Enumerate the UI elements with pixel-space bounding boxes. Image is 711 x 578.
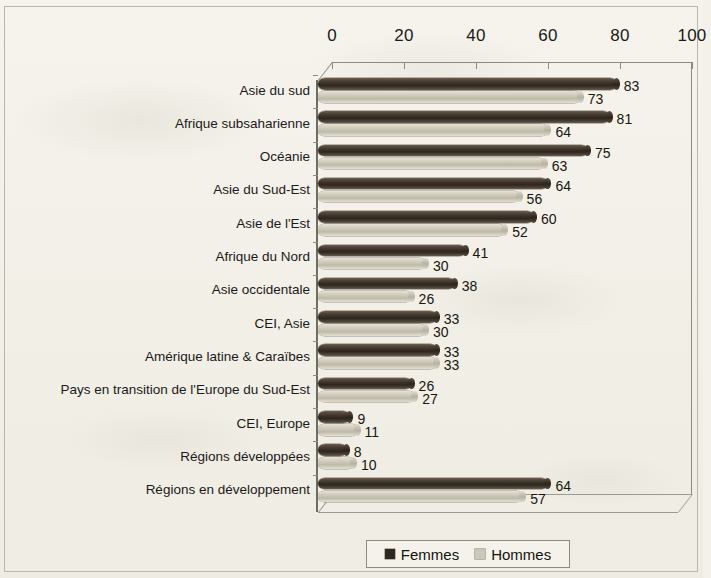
bar-hommes-9 (318, 391, 415, 403)
x-tick-mark (548, 62, 549, 69)
category-label: Asie du sud (239, 84, 310, 98)
bar-hommes-1 (318, 124, 548, 136)
value-label-femmes-0: 83 (624, 79, 640, 93)
category-label: Océanie (260, 150, 310, 164)
chart-legend: FemmesHommes (366, 540, 570, 568)
bar-femmes-0 (318, 78, 617, 90)
x-tick-100: 100 (662, 26, 711, 46)
category-label: Régions en développement (146, 483, 310, 497)
value-label-hommes-8: 33 (444, 358, 460, 372)
bar-femmes-4 (318, 211, 534, 223)
x-tick-mark (476, 62, 477, 69)
category-label: CEI, Europe (236, 417, 310, 431)
legend-label: Hommes (491, 546, 551, 563)
bar-femmes-7 (318, 311, 437, 323)
axis-line (691, 62, 692, 494)
bar-femmes-2 (318, 145, 588, 157)
axis-line (318, 512, 678, 513)
value-label-hommes-7: 30 (433, 325, 449, 339)
category-tick-mark (313, 341, 318, 342)
category-label: CEI, Asie (254, 317, 310, 331)
value-label-femmes-6: 38 (462, 279, 478, 293)
x-tick-mark (332, 62, 333, 69)
value-label-hommes-4: 52 (512, 225, 528, 239)
bar-hommes-0 (318, 91, 581, 103)
category-tick-mark (313, 408, 318, 409)
category-tick-mark (313, 441, 318, 442)
value-label-hommes-12: 57 (530, 492, 546, 506)
category-label: Asie de l'Est (236, 217, 310, 231)
x-tick-0: 0 (302, 26, 362, 46)
category-label: Afrique subsaharienne (175, 117, 310, 131)
value-label-femmes-2: 75 (595, 146, 611, 160)
bar-femmes-5 (318, 245, 466, 257)
value-label-femmes-3: 64 (555, 179, 571, 193)
category-tick-mark (313, 242, 318, 243)
category-label: Asie occidentale (212, 283, 310, 297)
legend-item-femmes[interactable]: Femmes (385, 546, 459, 563)
bar-femmes-11 (318, 444, 347, 456)
bar-femmes-1 (318, 111, 610, 123)
x-tick-mark (620, 62, 621, 69)
bar-hommes-2 (318, 158, 545, 170)
bar-hommes-5 (318, 258, 426, 270)
bar-hommes-10 (318, 424, 358, 436)
bar-femmes-10 (318, 411, 350, 423)
bar-hommes-8 (318, 357, 437, 369)
value-label-femmes-5: 41 (473, 246, 489, 260)
x-tick-mark (404, 62, 405, 69)
category-tick-mark (313, 108, 318, 109)
x-tick-mark (692, 62, 693, 69)
category-label: Régions développées (180, 450, 310, 464)
value-label-hommes-3: 56 (527, 192, 543, 206)
axis-line (332, 62, 692, 63)
bar-femmes-9 (318, 378, 412, 390)
bar-hommes-11 (318, 457, 354, 469)
bar-hommes-3 (318, 191, 520, 203)
bar-hommes-6 (318, 291, 412, 303)
x-tick-60: 60 (518, 26, 578, 46)
category-tick-mark (313, 375, 318, 376)
value-label-hommes-6: 26 (419, 292, 435, 306)
category-label: Asie du Sud-Est (213, 183, 310, 197)
category-tick-mark (313, 175, 318, 176)
axis-line (678, 494, 693, 513)
value-label-femmes-4: 60 (541, 212, 557, 226)
value-label-hommes-0: 73 (588, 92, 604, 106)
category-tick-mark (313, 475, 318, 476)
value-label-femmes-1: 81 (617, 112, 633, 126)
category-label: Pays en transition de l'Europe du Sud-Es… (61, 383, 310, 397)
bar-femmes-12 (318, 478, 548, 490)
legend-swatch-icon (385, 549, 395, 559)
legend-label: Femmes (401, 546, 459, 563)
legend-item-hommes[interactable]: Hommes (475, 546, 551, 563)
x-tick-20: 20 (374, 26, 434, 46)
category-tick-mark (313, 308, 318, 309)
value-label-hommes-10: 11 (365, 425, 380, 439)
category-label: Amérique latine & Caraïbes (145, 350, 310, 364)
category-tick-mark (313, 275, 318, 276)
category-tick-mark (313, 142, 318, 143)
category-label: Afrique du Nord (215, 250, 310, 264)
bar-hommes-12 (318, 491, 523, 503)
bar-femmes-3 (318, 178, 548, 190)
x-tick-40: 40 (446, 26, 506, 46)
category-tick-mark (313, 75, 318, 76)
x-tick-80: 80 (590, 26, 650, 46)
value-label-hommes-1: 64 (555, 125, 571, 139)
value-label-hommes-9: 27 (422, 392, 438, 406)
category-tick-mark (313, 208, 318, 209)
legend-swatch-icon (475, 549, 485, 559)
value-label-femmes-12: 64 (555, 479, 571, 493)
bar-hommes-7 (318, 324, 426, 336)
value-label-hommes-5: 30 (433, 259, 449, 273)
bar-femmes-6 (318, 278, 455, 290)
value-label-hommes-2: 63 (552, 159, 568, 173)
value-label-hommes-11: 10 (361, 458, 377, 472)
bar-femmes-8 (318, 344, 437, 356)
bar-hommes-4 (318, 224, 505, 236)
